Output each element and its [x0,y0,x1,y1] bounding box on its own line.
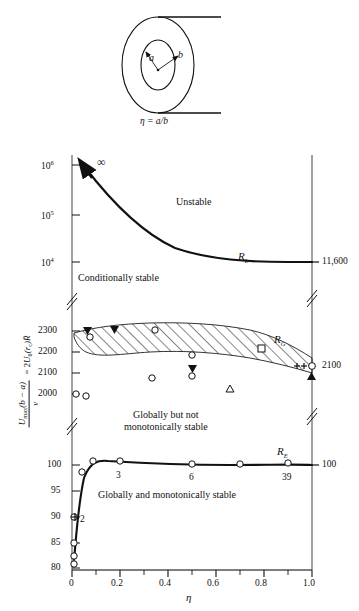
data-markers-RE [71,458,291,567]
endpoint-RL: 11,600 [322,256,348,266]
xtick-0.4: 0.4 [159,578,171,588]
region-globally-not-monotonic: Globally but notmonotonically stable [124,409,208,433]
region-unstable: Unstable [176,196,212,207]
point-label-39: 39 [282,472,292,482]
stability-diagram-figure: a b η = a/b Umax(b − a) ν = 2Uθ(rc)R̄ 10… [0,0,359,611]
point-label-3: 3 [116,470,121,480]
region-conditionally-stable: Conditionally stable [78,272,159,283]
xtick-0.8: 0.8 [255,578,267,588]
panel-linear-stability [72,161,319,262]
y-axis-label: Umax(b − a) ν = 2Uθ(rc)R̄ [17,306,40,456]
curve-label-RE: RE [277,445,288,459]
ytick-85: 85 [51,537,61,547]
x-axis-ticks [72,570,312,577]
xtick-0.6: 0.6 [207,578,219,588]
ytick-2100: 2100 [38,367,57,377]
xtick-0: 0 [69,578,74,588]
curve-label-RG: RG [274,333,285,347]
xtick-1.0: 1.0 [303,578,315,588]
infinity-marker: ∞ [97,155,106,170]
ytick-1e6: 106 [41,159,54,171]
annulus-schematic [122,17,221,113]
radius-b-label: b [178,49,183,60]
ytick-2000: 2000 [38,388,57,398]
endpoint-RG: 2100 [322,360,341,370]
x-axis-label: η [186,591,191,603]
xtick-0.2: 0.2 [111,578,123,588]
ytick-95: 95 [51,485,61,495]
ytick-80: 80 [51,562,61,572]
point-label-2: 2 [80,514,85,524]
ytick-90: 90 [51,511,61,521]
eta-definition-label: η = a/b [140,116,168,126]
ytick-1e5: 105 [41,209,54,221]
curve-label-RL: RL [238,250,248,264]
ytick-1e4: 104 [41,256,54,268]
region-globally-monotonic: Globally and monotonically stable [98,489,236,500]
ytick-2300: 2300 [38,325,57,335]
ytick-2200: 2200 [38,346,57,356]
endpoint-RE: 100 [322,459,336,469]
point-label-6: 6 [189,472,194,482]
radius-a-label: a [149,52,154,63]
ytick-100: 100 [47,459,61,469]
